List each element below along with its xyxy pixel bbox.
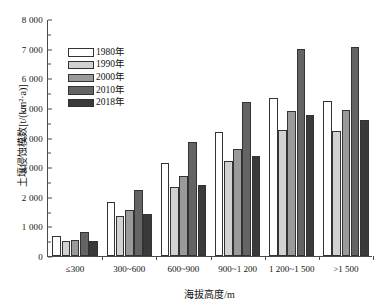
legend-label: 1990年 xyxy=(96,60,125,70)
legend-label: 2000年 xyxy=(96,73,125,83)
y-tick-mark xyxy=(48,49,52,50)
bar xyxy=(52,236,61,256)
bar xyxy=(198,185,207,256)
y-tick-mark xyxy=(48,20,52,21)
bar xyxy=(252,156,261,256)
bar xyxy=(125,210,134,257)
legend-swatch-icon xyxy=(68,86,94,95)
x-tick-mark xyxy=(319,256,320,260)
legend-item: 1980年 xyxy=(68,47,125,58)
y-minor-tick-mark xyxy=(48,153,51,154)
bar xyxy=(287,111,296,256)
y-axis-title: 土壤侵蚀模数[t/(km²·a)] xyxy=(14,61,29,211)
y-tick-label: 0 xyxy=(38,252,48,262)
y-tick-mark xyxy=(48,168,52,169)
bar xyxy=(188,142,197,256)
y-minor-tick-mark xyxy=(48,94,51,95)
legend-label: 2018年 xyxy=(96,98,125,108)
x-axis-title: 海拔高度/m xyxy=(47,286,372,301)
soil-erosion-bar-chart: 01 0002 0003 0004 0005 0006 0007 0008 00… xyxy=(0,0,383,305)
bar xyxy=(89,241,98,256)
bar xyxy=(134,190,143,256)
y-tick-mark xyxy=(48,197,52,198)
bar xyxy=(242,102,251,256)
y-tick-label: 1 000 xyxy=(22,222,48,232)
y-minor-tick-mark xyxy=(48,212,51,213)
legend-item: 2010年 xyxy=(68,85,125,96)
y-tick-mark xyxy=(48,257,52,258)
bar xyxy=(179,176,188,256)
y-tick-label: 7 000 xyxy=(22,45,48,55)
bar xyxy=(323,101,332,256)
bar xyxy=(269,98,278,256)
y-minor-tick-mark xyxy=(48,182,51,183)
y-tick-mark xyxy=(48,108,52,109)
bar xyxy=(342,110,351,256)
bar xyxy=(224,161,233,256)
x-tick-mark xyxy=(211,256,212,260)
legend-item: 2018年 xyxy=(68,97,125,108)
x-tick-label: 1 200~1 500 xyxy=(269,264,314,274)
y-tick-label: 8 000 xyxy=(22,15,48,25)
legend-swatch-icon xyxy=(68,61,94,70)
legend: 1980年1990年2000年2010年2018年 xyxy=(68,47,125,110)
bar xyxy=(71,240,80,256)
legend-item: 1990年 xyxy=(68,60,125,71)
bar xyxy=(306,115,315,256)
y-minor-tick-mark xyxy=(48,123,51,124)
legend-label: 1980年 xyxy=(96,48,125,58)
bar xyxy=(297,49,306,256)
x-tick-label: 900~1 200 xyxy=(218,264,257,274)
legend-swatch-icon xyxy=(68,74,94,83)
y-minor-tick-mark xyxy=(48,242,51,243)
bar xyxy=(170,187,179,256)
x-tick-label: 600~900 xyxy=(167,264,199,274)
y-tick-mark xyxy=(48,227,52,228)
bar xyxy=(332,131,341,256)
x-tick-mark xyxy=(156,256,157,260)
y-minor-tick-mark xyxy=(48,34,51,35)
y-tick-mark xyxy=(48,79,52,80)
bar xyxy=(107,202,116,257)
bar xyxy=(143,214,152,256)
legend-swatch-icon xyxy=(68,48,94,57)
bar xyxy=(161,163,170,256)
x-tick-label: ≤300 xyxy=(66,264,84,274)
bar xyxy=(80,232,89,256)
y-tick-mark xyxy=(48,138,52,139)
legend-item: 2000年 xyxy=(68,72,125,83)
x-tick-mark xyxy=(265,256,266,260)
bar xyxy=(116,216,125,256)
x-tick-mark xyxy=(102,256,103,260)
y-minor-tick-mark xyxy=(48,64,51,65)
x-tick-label: >1 500 xyxy=(333,264,358,274)
bar xyxy=(351,47,360,256)
x-tick-label: 300~600 xyxy=(113,264,145,274)
legend-swatch-icon xyxy=(68,99,94,108)
x-tick-mark xyxy=(373,256,374,260)
bar xyxy=(233,149,242,256)
bar xyxy=(215,132,224,256)
bar xyxy=(278,130,287,256)
bar xyxy=(360,120,369,256)
legend-label: 2010年 xyxy=(96,86,125,96)
bar xyxy=(62,241,71,256)
